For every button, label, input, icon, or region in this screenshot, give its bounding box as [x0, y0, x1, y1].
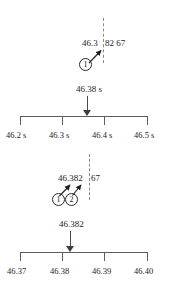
scale-tick-label-top-1: 46.3 s — [49, 130, 69, 140]
scale-tick-label-top-0: 46.2 s — [6, 130, 26, 140]
scale-top — [0, 116, 172, 128]
scale-tick-label-bottom-3: 46.40 — [134, 266, 153, 276]
scale-bottom — [0, 252, 172, 264]
scale-tick-bottom-1 — [62, 252, 63, 261]
callout-value-suffix-bottom: 67 — [91, 173, 100, 183]
callout-marker-1-bottom: 1 — [52, 193, 65, 206]
scale-end-cap-left-bottom — [20, 252, 21, 261]
scale-pointer-label-top: 46.38 s — [76, 84, 102, 94]
scale-pointer-label-bottom: 46.382 — [59, 219, 84, 229]
scale-tick-bottom-2 — [104, 252, 105, 261]
scale-axis-bottom — [20, 252, 147, 253]
scale-tick-label-top-3: 46.5 s — [134, 130, 154, 140]
measurement-reading-figure: 46.3 82 67 1 46.38 s — [0, 0, 172, 293]
coarse-reading-panel: 46.3 82 67 1 46.38 s — [0, 0, 172, 147]
callout-marker-1-top: 1 — [79, 58, 92, 71]
scale-end-cap-right-top — [147, 116, 148, 125]
scale-end-cap-left-top — [20, 116, 21, 125]
dashed-guide-line-bottom — [89, 154, 90, 200]
callout-marker-2-bottom: 2 — [65, 193, 78, 206]
scale-tick-top-2 — [104, 116, 105, 125]
scale-end-cap-right-bottom — [147, 252, 148, 261]
scale-tick-top-1 — [62, 116, 63, 125]
scale-tick-label-top-2: 46.4 s — [92, 130, 112, 140]
scale-tick-label-bottom-2: 46.39 — [92, 266, 111, 276]
scale-axis-top — [20, 116, 147, 117]
scale-tick-label-bottom-0: 46.37 — [7, 266, 26, 276]
scale-pointer-arrow-top — [83, 96, 92, 117]
fine-reading-panel: 46.382 67 1 2 46.382 — [0, 147, 172, 293]
callout-value-suffix-top: 82 67 — [105, 38, 125, 48]
scale-tick-label-bottom-1: 46.38 — [50, 266, 69, 276]
scale-pointer-arrow-bottom — [66, 231, 75, 253]
